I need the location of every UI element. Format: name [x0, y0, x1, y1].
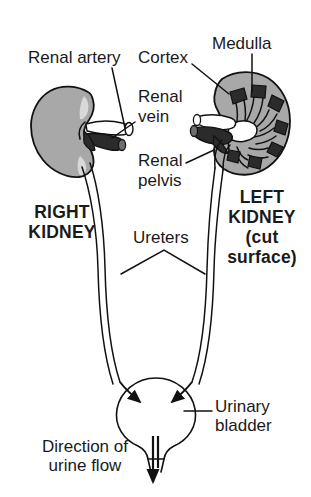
label-renal-vein-line1: Renal: [138, 87, 182, 106]
label-left-kidney-line1: LEFT: [240, 187, 285, 207]
left-renal-artery-lumen: [190, 126, 197, 137]
renal-pelvis-leader: [186, 150, 214, 163]
label-renal-pelvis-line2: pelvis: [138, 171, 181, 190]
medullary-pyramid: [251, 85, 266, 98]
label-urinary-bladder-line1: Urinary: [215, 397, 270, 416]
label-renal-artery: Renal artery: [28, 48, 121, 67]
label-renal-pelvis-line1: Renal: [138, 151, 182, 170]
label-right-kidney-line2: KIDNEY: [28, 222, 95, 242]
label-left-kidney-line2: KIDNEY: [228, 207, 295, 227]
renal-artery-leader: [112, 68, 125, 128]
medullary-pyramid: [227, 150, 240, 163]
right-renal-vessels: [84, 121, 133, 150]
left-kidney-group: [190, 72, 290, 175]
left-ureter-inner: [82, 167, 113, 384]
label-urinary-bladder-line2: bladder: [215, 416, 272, 435]
label-cortex: Cortex: [138, 48, 189, 67]
label-right-kidney-line1: RIGHT: [34, 202, 90, 222]
label-left-kidney-line4: surface): [227, 247, 297, 267]
label-medulla: Medulla: [212, 34, 272, 53]
label-direction-line2: urine flow: [49, 456, 122, 475]
ureter-inflow-arrow-left: [120, 382, 140, 402]
bladder-neck: [148, 459, 164, 472]
label-direction-line1: Direction of: [42, 437, 128, 456]
label-left-kidney-line3: (cut: [246, 227, 279, 247]
label-ureters: Ureters: [133, 228, 189, 247]
urinary-bladder-group: [116, 378, 195, 482]
diagram-canvas: Renal artery Cortex Medulla Renal vein R…: [0, 0, 311, 497]
left-renal-vein-lumen: [193, 115, 200, 126]
ureters-leader: [121, 250, 205, 274]
right-renal-artery-lumen: [118, 140, 125, 151]
urinary-system-diagram: Renal artery Cortex Medulla Renal vein R…: [0, 0, 311, 497]
ureter-inflow-arrow-right: [172, 382, 192, 402]
label-renal-vein-line2: vein: [138, 107, 169, 126]
medullary-pyramid: [248, 156, 262, 169]
right-ureter-outer: [192, 168, 215, 382]
